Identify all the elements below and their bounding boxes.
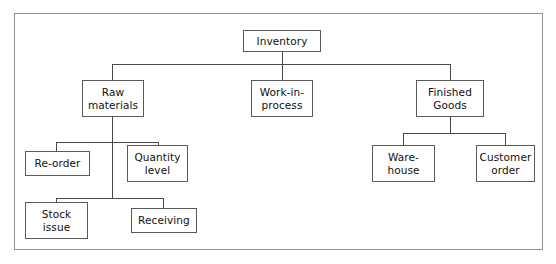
node-customer[interactable]: Customer order [476, 145, 535, 182]
node-wip[interactable]: Work-in- process [251, 80, 313, 117]
node-warehouse[interactable]: Ware- house [372, 145, 435, 182]
diagram-canvas: InventoryRaw materialsWork-in- processFi… [0, 0, 556, 264]
node-stock[interactable]: Stock issue [25, 202, 88, 239]
node-raw[interactable]: Raw materials [82, 80, 144, 117]
node-receiving[interactable]: Receiving [131, 208, 197, 233]
node-finished[interactable]: Finished Goods [416, 80, 484, 117]
node-quantity[interactable]: Quantity level [127, 145, 188, 182]
node-inventory[interactable]: Inventory [243, 30, 321, 52]
node-reorder[interactable]: Re-order [25, 151, 90, 176]
